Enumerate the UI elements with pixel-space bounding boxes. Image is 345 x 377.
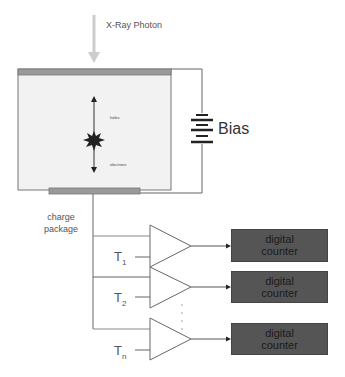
holes-label: holes bbox=[110, 115, 120, 120]
electrons-label: electrons bbox=[110, 162, 126, 167]
comparator-2 bbox=[150, 267, 191, 308]
xray-photon-label: X-Ray Photon bbox=[106, 20, 162, 30]
battery-icon bbox=[191, 115, 213, 142]
top-electrode bbox=[18, 69, 171, 75]
comparator-1 bbox=[150, 225, 191, 267]
digital-counter-2: digitalcounter bbox=[231, 271, 328, 303]
comparator-n bbox=[150, 318, 191, 360]
ellipsis-dots bbox=[181, 304, 183, 330]
detector-diagram bbox=[0, 0, 345, 377]
charge-label-line1: charge bbox=[44, 211, 78, 223]
xray-photon-arrow bbox=[88, 15, 100, 63]
charge-package-label: charge package bbox=[44, 211, 78, 235]
bottom-electrode bbox=[49, 188, 140, 194]
charge-label-line2: package bbox=[44, 223, 78, 235]
bias-label: Bias bbox=[218, 120, 249, 138]
threshold-label-1: T1 bbox=[114, 249, 126, 267]
threshold-label-n: Tn bbox=[114, 343, 126, 361]
digital-counter-n: digitalcounter bbox=[231, 323, 328, 355]
bias-wire bbox=[171, 69, 202, 113]
threshold-label-2: T2 bbox=[114, 290, 126, 308]
digital-counter-1: digitalcounter bbox=[231, 229, 328, 262]
